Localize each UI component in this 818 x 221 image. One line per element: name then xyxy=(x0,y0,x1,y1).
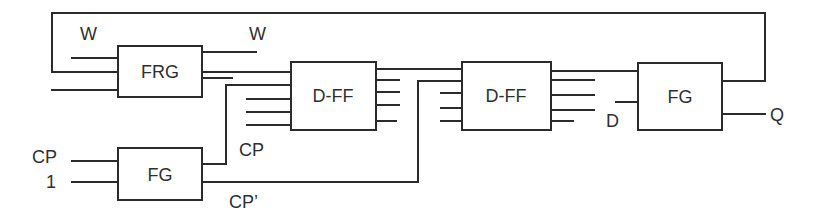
q-output-label: Q xyxy=(770,105,784,125)
fg-clock-block: FG xyxy=(118,148,202,200)
w-input-label: W xyxy=(80,24,97,44)
w-output-label: W xyxy=(249,24,266,44)
fg-clock-label: FG xyxy=(148,165,173,185)
frg-label: FRG xyxy=(141,62,179,82)
fg-output-label: FG xyxy=(668,87,693,107)
d-input-label: D xyxy=(606,111,619,131)
dff2-label: D-FF xyxy=(486,86,527,106)
dff1-block: D-FF xyxy=(291,62,376,130)
cp-input-label: CP xyxy=(32,147,57,167)
frg-block: FRG xyxy=(118,46,202,97)
cp-prime-label: CP’ xyxy=(229,192,258,212)
cp-mid-label: CP xyxy=(239,140,264,160)
dff1-label: D-FF xyxy=(313,86,354,106)
block-diagram: FRG D-FF D-FF FG FG W W CP 1 CP CP’ D Q xyxy=(0,0,818,221)
fg-output-block: FG xyxy=(638,63,722,130)
one-input-label: 1 xyxy=(46,172,56,192)
dff2-block: D-FF xyxy=(462,62,551,130)
